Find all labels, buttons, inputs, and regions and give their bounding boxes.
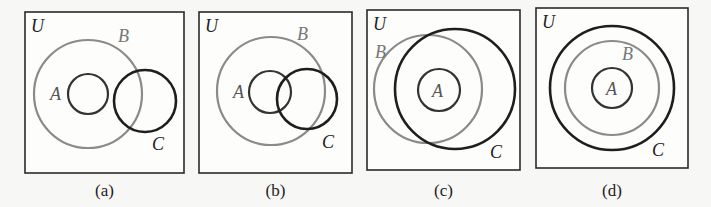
venn-diagrams-canvas: UBAC(a)UBAC(b)UBCA(c)UCBA(d) xyxy=(0,0,711,207)
set-c-label: C xyxy=(322,132,335,152)
set-b-label: B xyxy=(622,44,633,64)
set-b-label: B xyxy=(118,26,129,46)
universe-label: U xyxy=(31,16,45,36)
panel-caption: (c) xyxy=(434,181,453,200)
set-c-label: C xyxy=(652,140,665,160)
set-b-label: B xyxy=(297,24,308,44)
universe-label: U xyxy=(373,14,387,34)
set-a-label: A xyxy=(49,84,62,104)
venn-panel-c: UBCA(c) xyxy=(367,10,520,200)
set-a-label: A xyxy=(605,79,618,99)
set-a-label: A xyxy=(232,82,245,102)
set-a-label: A xyxy=(431,81,444,101)
set-c-label: C xyxy=(152,134,165,154)
venn-panel-d: UCBA(d) xyxy=(536,8,688,200)
panel-caption: (d) xyxy=(602,181,622,200)
panel-caption: (a) xyxy=(95,181,114,200)
venn-diagram-figure: UBAC(a)UBAC(b)UBCA(c)UCBA(d) xyxy=(0,0,711,207)
venn-panel-b: UBAC(b) xyxy=(199,12,352,200)
venn-panel-a: UBAC(a) xyxy=(25,12,184,200)
set-b-label: B xyxy=(375,42,386,62)
set-c-label: C xyxy=(490,142,503,162)
universe-label: U xyxy=(542,12,556,32)
panel-caption: (b) xyxy=(266,181,286,200)
universe-label: U xyxy=(205,16,219,36)
